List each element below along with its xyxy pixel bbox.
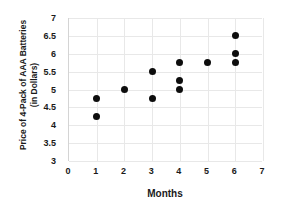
gridline-horizontal xyxy=(69,161,262,162)
data-point xyxy=(149,95,156,102)
y-tick-label: 6 xyxy=(26,49,56,59)
y-tick-label: 4.5 xyxy=(26,102,56,112)
x-tick-label: 0 xyxy=(56,166,80,176)
gridline-vertical xyxy=(152,18,153,161)
data-point xyxy=(232,32,239,39)
data-point xyxy=(149,68,156,75)
gridline-horizontal xyxy=(69,90,262,91)
gridline-vertical xyxy=(97,18,98,161)
y-tick-label: 5 xyxy=(26,85,56,95)
gridline-horizontal xyxy=(69,107,262,108)
x-tick-label: 7 xyxy=(250,166,274,176)
gridline-horizontal xyxy=(69,143,262,144)
y-tick-label: 4 xyxy=(26,120,56,130)
x-tick-label: 1 xyxy=(84,166,108,176)
x-axis-title: Months xyxy=(68,188,262,199)
gridline-horizontal xyxy=(69,125,262,126)
gridline-horizontal xyxy=(69,18,262,19)
data-point xyxy=(93,95,100,102)
data-point xyxy=(232,59,239,66)
x-tick-label: 2 xyxy=(111,166,135,176)
data-point xyxy=(93,113,100,120)
x-tick-label: 3 xyxy=(139,166,163,176)
gridline-vertical xyxy=(235,18,236,161)
y-tick-label: 3 xyxy=(26,156,56,166)
data-point xyxy=(204,59,211,66)
x-tick-label: 6 xyxy=(222,166,246,176)
y-tick-label: 3.5 xyxy=(26,138,56,148)
y-tick-label: 7 xyxy=(26,13,56,23)
plot-area xyxy=(68,18,262,161)
gridline-vertical xyxy=(263,18,264,161)
data-point xyxy=(232,50,239,57)
data-point xyxy=(176,59,183,66)
data-point xyxy=(176,77,183,84)
x-tick-label: 4 xyxy=(167,166,191,176)
scatter-chart: Price of 4-Pack of AAA Batteries (in Dol… xyxy=(0,0,288,215)
y-tick-label: 5.5 xyxy=(26,67,56,77)
y-tick-label: 6.5 xyxy=(26,31,56,41)
x-tick-label: 5 xyxy=(195,166,219,176)
gridline-horizontal xyxy=(69,72,262,73)
gridline-vertical xyxy=(208,18,209,161)
data-point xyxy=(121,86,128,93)
data-point xyxy=(176,86,183,93)
